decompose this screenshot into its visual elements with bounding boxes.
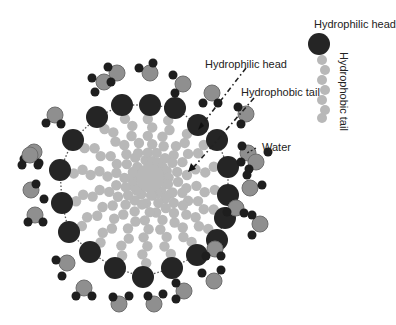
tail-bead: [177, 188, 187, 198]
hydrophilic-head: [86, 106, 108, 128]
tail-bead: [92, 211, 102, 221]
water-molecule: [144, 290, 168, 313]
micelle-canvas: [0, 0, 396, 325]
hydrogen-atom: [39, 218, 48, 227]
hydrophilic-head: [139, 94, 161, 116]
water-molecule: [23, 180, 49, 204]
hydrophilic-head: [51, 192, 73, 214]
tail-bead: [181, 209, 191, 219]
tail-bead: [119, 140, 129, 150]
hydrophilic-head: [164, 97, 186, 119]
hydrogen-atom: [217, 252, 226, 261]
hydrogen-atom: [171, 89, 180, 98]
hydrogen-atom: [88, 74, 97, 83]
tail-bead: [173, 177, 183, 187]
tail-bead: [134, 138, 144, 148]
tail-bead: [194, 221, 204, 231]
water-molecule: [242, 171, 267, 197]
legend-hydrophobic-tail-label: Hydrophobic tail: [338, 52, 349, 131]
tail-bead: [118, 209, 128, 219]
tail-bead: [172, 167, 182, 177]
tail-bead: [155, 224, 165, 234]
hydrogen-atom: [88, 292, 97, 301]
tail-bead: [95, 151, 105, 161]
water-molecule: [109, 292, 134, 313]
hydrogen-atom: [58, 272, 67, 281]
micelle-diagram: Hydrophilic head Hydrophobic tail Hydrop…: [0, 0, 396, 325]
tail-bead: [200, 167, 210, 177]
hydrogen-atom: [169, 71, 178, 80]
hydrogen-atom: [125, 292, 134, 301]
tail-bead: [178, 232, 188, 242]
tail-bead: [107, 200, 117, 210]
hydrophilic-head: [187, 114, 209, 136]
oxygen-atom: [206, 273, 222, 289]
tail-bead: [112, 159, 122, 169]
water-molecule: [52, 255, 76, 281]
tail-bead: [193, 196, 203, 206]
hydrogen-atom: [24, 218, 33, 227]
hydrogen-atom: [91, 88, 100, 97]
water-molecule: [172, 279, 193, 304]
pointer-hydrophilic-head-label: Hydrophilic head: [205, 59, 287, 70]
tail-bead: [107, 223, 117, 233]
legend-tail-bead: [317, 113, 327, 123]
hydrophilic-head: [111, 94, 133, 116]
hydrophilic-head: [206, 129, 228, 151]
legend-tail-bead: [317, 75, 327, 85]
hydrogen-atom: [57, 120, 66, 129]
tail-bead: [82, 212, 92, 222]
hydrogen-atom: [40, 195, 49, 204]
hydrogen-atom: [144, 292, 153, 301]
oxygen-atom: [142, 65, 158, 81]
hydrogen-atom: [202, 252, 211, 261]
tail-bead: [102, 171, 112, 181]
tail-bead: [157, 131, 167, 141]
water-molecule: [198, 266, 226, 290]
tail-bead: [159, 241, 169, 251]
tail-bead: [98, 228, 108, 238]
tail-bead: [182, 170, 192, 180]
tail-bead: [109, 213, 119, 223]
water-molecule: [135, 59, 159, 82]
hydrogen-atom: [234, 103, 243, 112]
pointer-hydrophobic-tail-label: Hydrophobic tail: [241, 87, 320, 98]
hydrogen-atom: [243, 171, 252, 180]
hydrophilic-head: [49, 159, 71, 181]
hydrogen-atom: [223, 208, 232, 217]
legend-surfactant-molecule: [308, 33, 330, 123]
tail-bead: [178, 200, 188, 210]
hydrogen-atom: [258, 181, 267, 190]
hydrophilic-head: [104, 257, 126, 279]
hydrogen-atom: [172, 279, 181, 288]
hydrogen-atom: [238, 142, 247, 151]
hydrophilic-head: [132, 266, 154, 288]
legend-tail-bead: [317, 55, 327, 65]
legend-head: [308, 33, 330, 55]
tail-bead: [171, 141, 181, 151]
hydrogen-atom: [240, 209, 249, 218]
water-molecule: [72, 280, 97, 301]
tail-bead: [111, 180, 121, 190]
water-molecule: [169, 71, 192, 98]
water-molecule: [199, 85, 223, 108]
hydrophilic-head: [79, 241, 101, 263]
legend-tail-bead: [320, 65, 330, 75]
hydrogen-atom: [32, 180, 41, 189]
tail-bead: [127, 121, 137, 131]
tail-bead: [199, 187, 209, 197]
hydrogen-atom: [149, 59, 158, 68]
tail-bead: [78, 190, 88, 200]
hydrogen-atom: [107, 78, 116, 87]
hydrogen-atom: [34, 161, 43, 170]
tail-bead: [95, 185, 105, 195]
hydrogen-atom: [199, 99, 208, 108]
tail-bead: [191, 181, 201, 191]
water-molecule: [42, 107, 66, 129]
tail-bead: [119, 173, 129, 183]
tail-bead: [85, 170, 95, 180]
tail-bead: [124, 233, 134, 243]
legend-tail-bead: [320, 85, 330, 95]
legend-hydrophilic-head-label: Hydrophilic head: [314, 19, 396, 30]
oxygen-atom: [242, 180, 258, 196]
